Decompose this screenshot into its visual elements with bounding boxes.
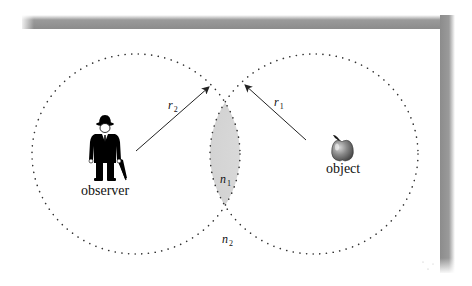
diagram-canvas: observer object r2 r1 n1 n2 (0, 0, 472, 286)
object-label: object (326, 161, 360, 177)
diagram-graphics (0, 0, 472, 286)
radius-label-r1: r1 (274, 95, 284, 111)
overlap-index-label-n1: n1 (220, 172, 231, 188)
radius-label-r2: r2 (168, 98, 178, 114)
outside-index-label-n2: n2 (222, 232, 233, 248)
observer-label: observer (81, 183, 129, 199)
